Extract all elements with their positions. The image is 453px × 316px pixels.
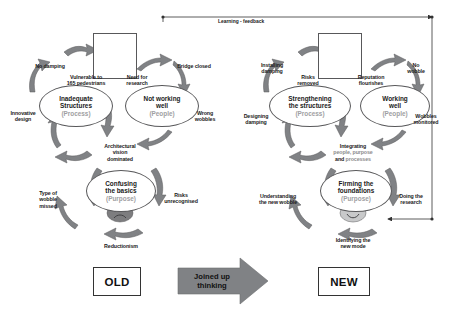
label-vulnerable-165-line1: Vulnerable to [70,74,102,80]
label-architectural-vision: Architectural vision dominated [90,143,150,162]
label-installing-damping: Installing damping [249,62,295,75]
node-new-purpose-line1: Firming the [339,180,374,187]
label-risks-unrecognised: Risks unrecognised [155,192,207,205]
node-new-purpose-line2: foundations [338,187,375,194]
label-bridge-closed: Bridge closed [165,63,223,69]
label-type-of-wobble-missed-line3: missed [39,203,57,209]
label-risks-unrecognised-line1: Risks [174,192,188,198]
label-designing-damping-line1: Designing [244,113,269,119]
label-wobbles-monitored-line2: monitored [414,119,439,125]
label-doing-the-research-line2: research [400,199,421,205]
label-doing-the-research-line1: Doing the [399,193,423,199]
label-understanding-new-wobble: Understanding the new wobble [242,193,314,206]
tag-new-label: NEW [330,276,357,288]
label-architectural-vision-line3: dominated [107,156,133,162]
label-architectural-vision-line1: Architectural [104,143,135,149]
label-risks-unrecognised-line2: unrecognised [164,198,198,204]
node-new-people-line1: Working [382,95,407,102]
label-integrating-line3b: processes [346,156,371,162]
label-integrating-line3a: and [335,156,346,162]
label-reputation-flourishes-line2: flourishes [359,80,383,86]
arrow-old-10 [104,228,143,240]
node-new-people-line2: well [389,102,401,109]
joined-up-thinking-line2: thinking [197,281,227,291]
tag-old-label: OLD [105,276,130,288]
learning-feedback-label: Learning - feedback [218,19,264,24]
new-chart-box [318,33,362,79]
node-old-people-sub: (People) [149,110,174,117]
label-identifying-new-mode: Identifying the new mode [315,237,391,250]
label-integrating: Integrating people, purpose and processe… [314,143,392,162]
arrow-old-4 [55,151,92,163]
label-identifying-new-mode-line1: Identifying the [336,237,371,243]
label-no-wobble-line2: wobble [407,68,425,74]
label-no-damping: No damping [20,63,80,69]
node-old-process-line2: Structures [60,102,92,109]
diagram-canvas: Learning - feedback Inadequate Structure… [0,0,453,316]
label-understanding-new-wobble-line2: the new wobble [259,199,297,205]
node-old-process-line1: Inadequate [59,95,93,102]
label-installing-damping-line2: damping [261,68,282,74]
node-old-purpose-sub: (Purpose) [106,195,136,202]
node-old-process-sub: (Process) [61,110,90,117]
label-wobbles-monitored-line1: Wobbles [415,113,436,119]
label-risks-removed-line1: Risks [301,74,315,80]
label-understanding-new-wobble-line1: Understanding [260,193,296,199]
label-need-for-research: Need for research [116,74,158,87]
node-old-purpose-line1: Confusing [105,180,137,187]
node-old-purpose[interactable]: Confusing the basics (Purpose) [86,170,156,212]
label-need-for-research-line2: research [126,80,147,86]
label-innovative-design-line1: Innovative [10,110,35,116]
old-chart-box [93,33,137,79]
label-designing-damping-line2: damping [245,119,266,125]
tag-new: NEW [318,267,370,296]
node-new-process-line1: Strengthening [288,95,331,102]
label-innovative-design-line2: design [15,116,31,122]
joined-up-thinking-label: Joined up thinking [181,265,243,297]
node-old-people-line1: Not working [144,95,181,102]
node-old-process[interactable]: Inadequate Structures (Process) [39,85,113,127]
node-new-purpose[interactable]: Firming the foundations (Purpose) [320,170,392,212]
joined-up-thinking-line1: Joined up [194,272,230,282]
label-need-for-research-line1: Need for [127,74,148,80]
label-type-of-wobble-missed-line1: Type of [39,190,57,196]
label-risks-removed: Risks removed [288,74,328,87]
label-type-of-wobble-missed-line2: wobble [39,196,57,202]
label-architectural-vision-line2: vision [113,149,128,155]
node-old-purpose-line2: the basics [105,187,136,194]
label-innovative-design: Innovative design [2,110,44,123]
node-new-purpose-sub: (Purpose) [341,195,371,202]
label-wobbles-monitored: Wobbles monitored [404,113,448,126]
label-reputation-flourishes-line1: Reputation [358,74,385,80]
tag-old: OLD [93,267,141,296]
label-type-of-wobble-missed: Type of wobble missed [28,190,68,209]
label-wrong-wobbles-line2: wobbles [195,116,216,122]
label-vulnerable-165-line2: 165 pedestrians [67,80,106,86]
label-reductionism: Reductionism [86,243,156,249]
label-integrating-line2: people, purpose [333,149,372,155]
label-reputation-flourishes: Reputation flourishes [347,74,395,87]
label-no-wobble-line1: No [413,62,420,68]
label-wrong-wobbles: Wrong wobbles [186,110,224,123]
label-identifying-new-mode-line2: new mode [340,243,365,249]
label-no-wobble: No wobble [399,62,433,75]
label-integrating-line1: Integrating [340,143,366,149]
node-new-process[interactable]: Strengthening the structures (Process) [269,85,351,127]
label-risks-removed-line2: removed [297,80,318,86]
node-new-process-line2: the structures [289,102,332,109]
node-new-process-sub: (Process) [295,110,324,117]
node-old-people-line2: well [156,102,168,109]
label-doing-the-research: Doing the research [390,193,432,206]
label-vulnerable-165: Vulnerable to 165 pedestrians [55,74,117,87]
label-designing-damping: Designing damping [234,113,278,126]
label-installing-damping-line1: Installing [261,62,283,68]
label-wrong-wobbles-line1: Wrong [197,110,213,116]
